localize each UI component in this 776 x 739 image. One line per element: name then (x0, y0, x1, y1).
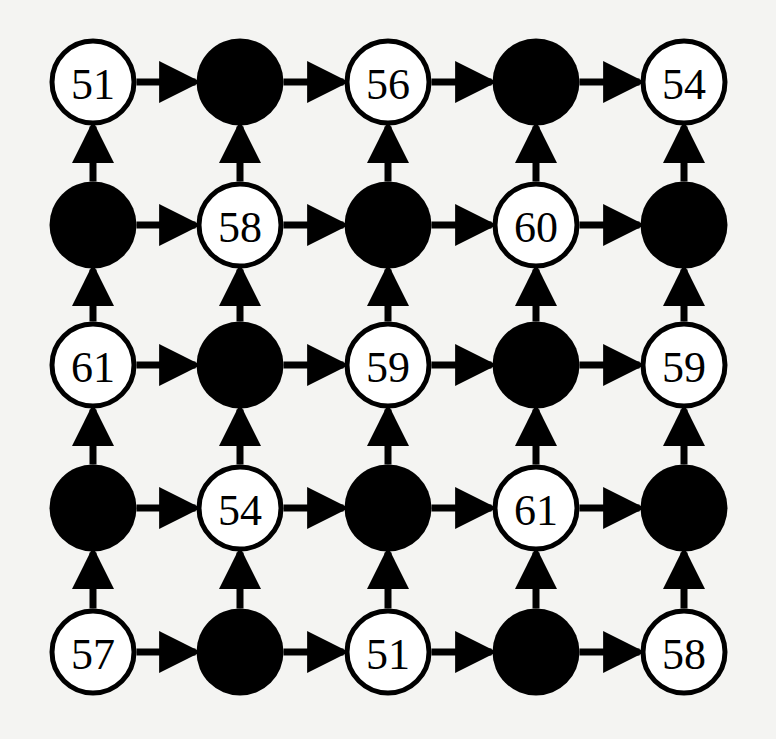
filled-node (197, 39, 284, 126)
filled-node (493, 39, 580, 126)
filled-node (197, 609, 284, 696)
open-node: 59 (643, 324, 725, 406)
filled-circle-icon (50, 182, 137, 269)
filled-node (197, 322, 284, 409)
node-value: 58 (218, 203, 262, 252)
node-value: 56 (366, 60, 410, 109)
filled-node (493, 609, 580, 696)
open-node: 59 (347, 324, 429, 406)
filled-node (345, 182, 432, 269)
filled-node (641, 465, 728, 552)
node-value: 61 (514, 486, 558, 535)
filled-circle-icon (197, 609, 284, 696)
filled-node (493, 322, 580, 409)
filled-circle-icon (345, 182, 432, 269)
open-node: 56 (347, 41, 429, 123)
open-node: 54 (199, 467, 281, 549)
node-value: 51 (366, 630, 410, 679)
open-node: 57 (52, 611, 134, 693)
node-value: 60 (514, 203, 558, 252)
directed-grid-graph: 51565458606159595461575158 (0, 0, 776, 739)
node-value: 61 (71, 343, 115, 392)
grid-diagram: 51565458606159595461575158 (0, 0, 776, 739)
filled-circle-icon (197, 39, 284, 126)
filled-node (345, 465, 432, 552)
filled-circle-icon (641, 182, 728, 269)
open-node: 61 (52, 324, 134, 406)
node-value: 59 (662, 343, 706, 392)
open-node: 58 (643, 611, 725, 693)
filled-circle-icon (641, 465, 728, 552)
open-node: 60 (495, 184, 577, 266)
node-value: 51 (71, 60, 115, 109)
filled-node (641, 182, 728, 269)
filled-circle-icon (345, 465, 432, 552)
filled-circle-icon (493, 609, 580, 696)
node-value: 59 (366, 343, 410, 392)
filled-node (50, 465, 137, 552)
filled-circle-icon (197, 322, 284, 409)
filled-node (50, 182, 137, 269)
filled-circle-icon (50, 465, 137, 552)
open-node: 51 (52, 41, 134, 123)
filled-circle-icon (493, 39, 580, 126)
open-node: 61 (495, 467, 577, 549)
node-value: 54 (218, 486, 262, 535)
open-node: 51 (347, 611, 429, 693)
open-node: 58 (199, 184, 281, 266)
filled-circle-icon (493, 322, 580, 409)
open-node: 54 (643, 41, 725, 123)
node-value: 57 (71, 630, 115, 679)
node-value: 54 (662, 60, 706, 109)
node-value: 58 (662, 630, 706, 679)
